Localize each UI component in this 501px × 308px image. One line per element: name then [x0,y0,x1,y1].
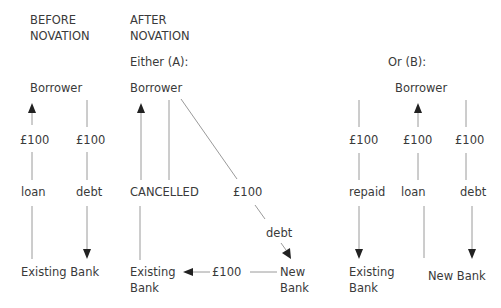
option-a-diagonal-upper [181,99,237,179]
after-header-line2: NOVATION [130,29,190,43]
option-b-existing-bank-line1: Existing [349,265,395,279]
option-b-debt-amount: £100 [455,133,484,147]
arrow-left-icon [183,268,193,276]
before-loan-label: loan [21,185,46,199]
option-b-repaid-label: repaid [349,185,385,199]
option-b-borrower: Borrower [395,81,447,95]
arrow-up-icon [414,103,422,113]
option-a-existing-bank-line1: Existing [130,265,176,279]
arrow-diagonal-icon [282,248,291,259]
novation-diagram: BEFORE NOVATION AFTER NOVATION Either (A… [0,0,501,308]
arrow-up-icon [28,103,36,113]
before-header-line2: NOVATION [30,29,90,43]
arrow-down-icon [468,249,476,259]
option-a-diagonal-lower [281,243,286,250]
option-b-debt-label: debt [460,185,487,199]
before-debt-amount: £100 [76,133,105,147]
option-b-loan-label: loan [401,185,426,199]
option-a-cancelled: CANCELLED [130,185,199,199]
option-a-new-bank-line1: New [280,265,305,279]
arrow-down-icon [83,249,91,259]
option-a-diagonal-mid [255,205,265,219]
before-borrower: Borrower [30,81,82,95]
arrow-down-icon [355,249,363,259]
option-a-new-bank-line2: Bank [280,281,309,295]
before-loan-amount: £100 [20,133,49,147]
option-a-debt-label: debt [266,226,293,240]
option-a-existing-bank-line2: Bank [130,281,159,295]
option-b-repaid-amount: £100 [349,133,378,147]
option-b-existing-bank-line2: Bank [349,281,378,295]
before-debt-label: debt [76,185,103,199]
option-b-new-bank: New Bank [428,269,486,283]
option-b-loan-amount: £100 [403,133,432,147]
option-a-transfer-amount: £100 [212,265,241,279]
before-existing-bank: Existing Bank [21,265,99,279]
option-a-debt-amount: £100 [233,185,262,199]
after-header-line1: AFTER [130,13,167,27]
option-a-borrower: Borrower [130,81,182,95]
before-header-line1: BEFORE [30,13,76,27]
option-b-label: Or (B): [388,55,426,69]
option-a-label: Either (A): [130,55,188,69]
arrow-up-icon [137,103,145,113]
